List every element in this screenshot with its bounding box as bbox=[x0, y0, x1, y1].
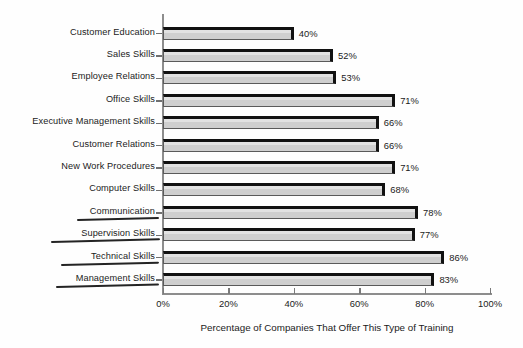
y-axis-tick bbox=[156, 167, 162, 168]
x-axis-tick-label: 60% bbox=[350, 298, 369, 309]
x-axis-tick-mark bbox=[228, 288, 229, 294]
bar bbox=[163, 49, 333, 62]
bar-highlight bbox=[164, 97, 392, 100]
bar-value-label: 66% bbox=[384, 117, 403, 128]
bar-highlight bbox=[164, 119, 376, 122]
bar-row: Supervision Skills77% bbox=[0, 227, 523, 250]
x-axis-tick-label: 40% bbox=[284, 298, 303, 309]
category-label: Technical Skills bbox=[0, 251, 155, 261]
bar-highlight bbox=[164, 254, 441, 257]
bar-row: Computer Skills68% bbox=[0, 182, 523, 205]
bar-highlight bbox=[164, 186, 382, 189]
bar-row: Communication78% bbox=[0, 205, 523, 228]
y-axis-tick bbox=[156, 78, 162, 79]
y-axis-tick bbox=[156, 33, 162, 34]
category-label: Office Skills bbox=[0, 94, 155, 104]
bar-row: Management Skills83% bbox=[0, 272, 523, 295]
bar bbox=[163, 161, 395, 174]
y-axis-tick bbox=[156, 279, 162, 280]
bar-chart-plot-area: Customer Education40%Sales Skills52%Empl… bbox=[0, 0, 523, 348]
bar-value-label: 86% bbox=[449, 252, 468, 263]
bar-row: New Work Procedures71% bbox=[0, 160, 523, 183]
bar-row: Customer Education40% bbox=[0, 26, 523, 49]
category-underline bbox=[56, 283, 159, 287]
y-axis-tick bbox=[156, 212, 162, 213]
bar-highlight bbox=[164, 164, 392, 167]
y-axis-tick bbox=[156, 100, 162, 101]
y-axis-tick bbox=[156, 55, 162, 56]
bar-highlight bbox=[164, 52, 330, 55]
y-axis-tick bbox=[156, 190, 162, 191]
bar bbox=[163, 94, 395, 107]
x-axis-tick-mark bbox=[163, 288, 164, 294]
category-label: Computer Skills bbox=[0, 183, 155, 193]
y-axis-tick bbox=[156, 145, 162, 146]
bar-value-label: 53% bbox=[341, 72, 360, 83]
bar bbox=[163, 139, 379, 152]
category-label: Employee Relations bbox=[0, 71, 155, 81]
y-axis-tick bbox=[156, 235, 162, 236]
bar-highlight bbox=[164, 231, 412, 234]
bar-highlight bbox=[164, 142, 376, 145]
y-axis-tick bbox=[156, 257, 162, 258]
x-axis-title: Percentage of Companies That Offer This … bbox=[163, 322, 491, 333]
x-axis-tick-label: 20% bbox=[219, 298, 238, 309]
x-axis-tick-mark bbox=[490, 288, 491, 294]
bar-value-label: 68% bbox=[390, 184, 409, 195]
category-label: Supervision Skills bbox=[0, 228, 155, 238]
bar-highlight bbox=[164, 209, 415, 212]
x-axis-tick-label: 80% bbox=[415, 298, 434, 309]
chart-page: Customer Education40%Sales Skills52%Empl… bbox=[0, 0, 523, 348]
x-axis-tick-label: 0% bbox=[156, 298, 170, 309]
bar-row: Executive Management Skills66% bbox=[0, 115, 523, 138]
bar-row: Office Skills71% bbox=[0, 93, 523, 116]
x-axis-tick-mark bbox=[294, 288, 295, 294]
bar bbox=[163, 251, 444, 264]
bar-value-label: 71% bbox=[400, 95, 419, 106]
bar-row: Employee Relations53% bbox=[0, 70, 523, 93]
bar bbox=[163, 228, 415, 241]
x-axis-tick-mark bbox=[425, 288, 426, 294]
bar-row: Technical Skills86% bbox=[0, 250, 523, 273]
category-underline bbox=[50, 238, 159, 242]
category-label: Management Skills bbox=[0, 273, 155, 283]
bar bbox=[163, 206, 418, 219]
bar-highlight bbox=[164, 276, 431, 279]
bar-row: Customer Relations66% bbox=[0, 138, 523, 161]
bar-value-label: 52% bbox=[338, 50, 357, 61]
category-underline bbox=[61, 261, 159, 265]
bar-highlight bbox=[164, 74, 333, 77]
bar bbox=[163, 27, 294, 40]
category-label: Communication bbox=[0, 206, 155, 216]
bar-value-label: 66% bbox=[384, 140, 403, 151]
bar bbox=[163, 116, 379, 129]
category-label: Customer Relations bbox=[0, 139, 155, 149]
bar-value-label: 77% bbox=[420, 229, 439, 240]
bar bbox=[163, 71, 336, 84]
category-label: Executive Management Skills bbox=[0, 116, 155, 126]
bar-value-label: 83% bbox=[439, 274, 458, 285]
category-label: Customer Education bbox=[0, 27, 155, 37]
bar-highlight bbox=[164, 30, 291, 33]
category-label: Sales Skills bbox=[0, 49, 155, 59]
category-underline bbox=[77, 217, 159, 221]
bar-value-label: 40% bbox=[299, 28, 318, 39]
y-axis-tick bbox=[156, 123, 162, 124]
x-axis-tick-mark bbox=[359, 288, 360, 294]
bar bbox=[163, 183, 385, 196]
bar-value-label: 78% bbox=[423, 207, 442, 218]
bar-value-label: 71% bbox=[400, 162, 419, 173]
category-label: New Work Procedures bbox=[0, 161, 155, 171]
bar bbox=[163, 273, 434, 286]
bar-row: Sales Skills52% bbox=[0, 48, 523, 71]
x-axis-tick-label: 100% bbox=[478, 298, 502, 309]
